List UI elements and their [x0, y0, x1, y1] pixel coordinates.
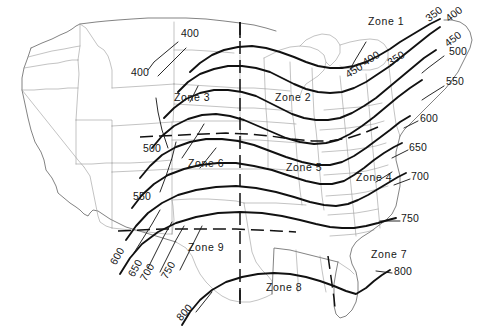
zone-label-6: Zone 6: [188, 158, 224, 169]
zone-label-9: Zone 9: [188, 242, 224, 253]
contour-label-400-left: 400: [131, 67, 149, 78]
contour-label-550-left: 550: [133, 191, 151, 202]
climate-zone-map: Zone 1 Zone 2 Zone 3 Zone 4 Zone 5 Zone …: [0, 0, 479, 335]
contour-label-800-east: 800: [394, 266, 412, 277]
zone-label-7: Zone 7: [371, 249, 407, 260]
contour-label-500-ne: 500: [449, 46, 467, 57]
national-outline: [22, 18, 276, 242]
contour-label-550-ne: 550: [446, 76, 464, 87]
zone-label-4: Zone 4: [356, 172, 392, 183]
zone-label-3: Zone 3: [174, 92, 210, 103]
contour-label-650-east: 650: [409, 142, 427, 153]
zone-label-2: Zone 2: [275, 92, 311, 103]
state-borders-west: [22, 22, 272, 302]
zone-label-8: Zone 8: [266, 282, 302, 293]
contour-label-750-east: 750: [401, 213, 419, 224]
contour-label-600-east: 600: [420, 113, 438, 124]
contour-label-700-east: 700: [411, 171, 429, 182]
zone-label-5: Zone 5: [286, 162, 322, 173]
contour-label-500-left: 500: [143, 143, 161, 154]
contour-label-400-upper: 400: [181, 28, 199, 39]
map-canvas: [0, 0, 479, 335]
zone-label-1: Zone 1: [368, 16, 404, 27]
